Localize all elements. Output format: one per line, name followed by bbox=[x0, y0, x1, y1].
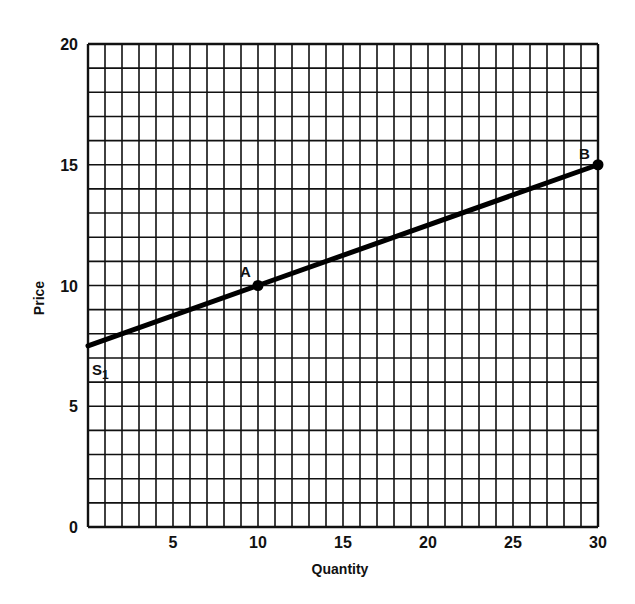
point-a-label: A bbox=[240, 263, 251, 280]
axis-ticks: 5101520253005101520 bbox=[60, 36, 607, 551]
y-tick-label: 20 bbox=[60, 36, 78, 53]
x-axis-label: Quantity bbox=[312, 561, 369, 577]
y-tick-label: 0 bbox=[69, 519, 78, 536]
curve-label-main: S bbox=[92, 361, 102, 378]
curve-label-s1: S1 bbox=[92, 361, 109, 382]
point-a-marker bbox=[253, 280, 264, 291]
x-tick-label: 10 bbox=[249, 534, 267, 551]
y-tick-label: 5 bbox=[69, 398, 78, 415]
x-tick-label: 30 bbox=[589, 534, 607, 551]
supply-chart: 5101520253005101520 Quantity Price A B S… bbox=[0, 0, 635, 604]
y-axis-label: Price bbox=[31, 281, 47, 315]
y-tick-label: 15 bbox=[60, 157, 78, 174]
grid bbox=[88, 44, 598, 527]
y-tick-label: 10 bbox=[60, 278, 78, 295]
curve-label-subscript: 1 bbox=[102, 368, 109, 382]
supply-line-s1 bbox=[88, 159, 604, 346]
point-b-marker bbox=[593, 159, 604, 170]
x-tick-label: 25 bbox=[504, 534, 522, 551]
point-b-label: B bbox=[579, 145, 590, 162]
x-tick-label: 20 bbox=[419, 534, 437, 551]
x-tick-label: 15 bbox=[334, 534, 352, 551]
x-tick-label: 5 bbox=[169, 534, 178, 551]
